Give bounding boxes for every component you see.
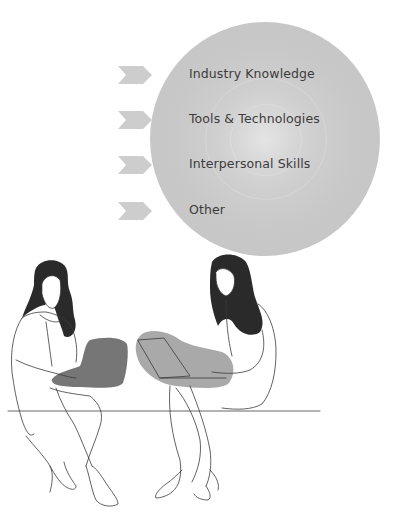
left-legs [26, 388, 102, 492]
left-shoe-1 [50, 462, 76, 489]
left-laptop-blob [52, 338, 128, 388]
right-laptop-blob [136, 331, 234, 388]
right-hair [210, 255, 263, 335]
women-working-illustration [0, 0, 396, 516]
left-shoe-2 [86, 466, 118, 506]
